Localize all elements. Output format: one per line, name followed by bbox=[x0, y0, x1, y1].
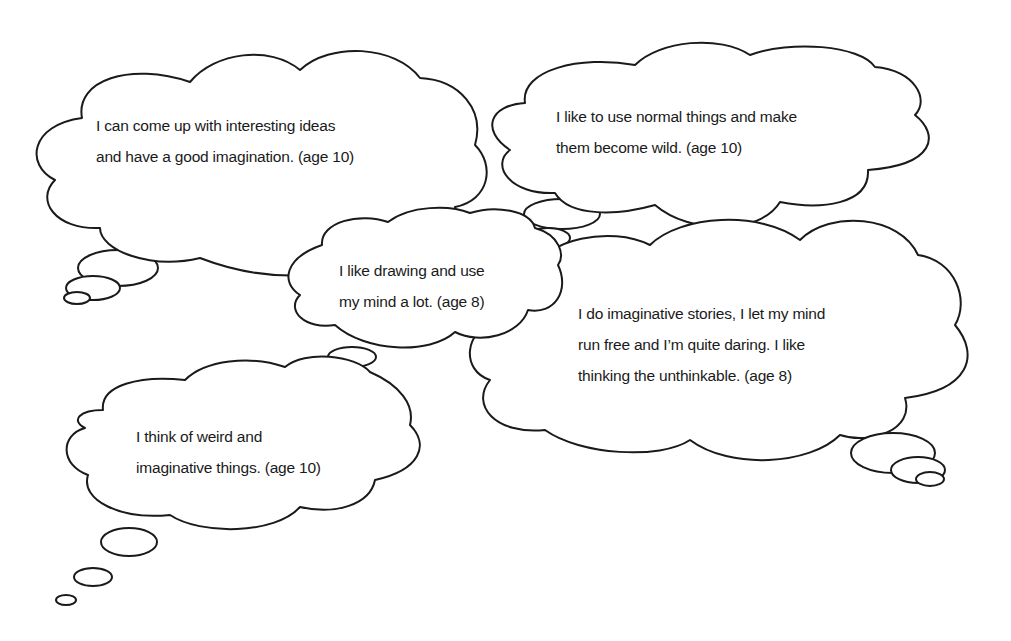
bubble-1-text: I can come up with interesting ideas and… bbox=[96, 110, 354, 172]
bubble-line: I like to use normal things and make bbox=[556, 101, 797, 132]
thought-tail-puff bbox=[64, 292, 90, 304]
bubble-5-text: I think of weird and imaginative things.… bbox=[136, 421, 321, 483]
bubble-line: I think of weird and bbox=[136, 421, 321, 452]
bubble-3-text: I like drawing and use my mind a lot. (a… bbox=[339, 255, 485, 317]
thought-tail-puff bbox=[74, 568, 112, 586]
bubble-line: and have a good imagination. (age 10) bbox=[96, 141, 354, 172]
thought-bubbles-diagram bbox=[0, 0, 1011, 641]
bubble-line: thinking the unthinkable. (age 8) bbox=[578, 360, 825, 391]
bubble-line: them become wild. (age 10) bbox=[556, 132, 797, 163]
bubble-line: I can come up with interesting ideas bbox=[96, 110, 354, 141]
bubble-line: run free and I’m quite daring. I like bbox=[578, 329, 825, 360]
thought-tail-puff bbox=[101, 528, 157, 556]
bubble-line: my mind a lot. (age 8) bbox=[339, 286, 485, 317]
bubble-line: I do imaginative stories, I let my mind bbox=[578, 298, 825, 329]
bubble-2-text: I like to use normal things and make the… bbox=[556, 101, 797, 163]
bubble-line: imaginative things. (age 10) bbox=[136, 452, 321, 483]
bubble-4-text: I do imaginative stories, I let my mind … bbox=[578, 298, 825, 391]
thought-tail-puff bbox=[916, 472, 944, 486]
bubble-line: I like drawing and use bbox=[339, 255, 485, 286]
thought-tail-puff bbox=[56, 595, 76, 605]
